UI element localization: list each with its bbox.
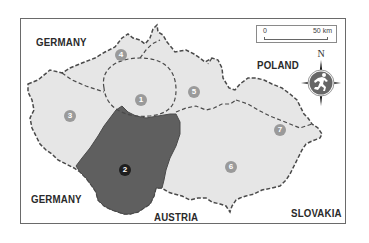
scale-end-label: 50 km <box>313 27 332 34</box>
region-5-badge[interactable]: 5 <box>188 86 200 98</box>
compass-rose: N <box>301 48 341 106</box>
label-austria: AUSTRIA <box>154 211 198 223</box>
north-label: N <box>301 48 341 59</box>
label-germany-south: GERMANY <box>31 193 82 205</box>
scale-bar: 0 50 km <box>256 25 337 43</box>
region-6-badge[interactable]: 6 <box>225 161 237 173</box>
label-germany-north: GERMANY <box>36 36 87 48</box>
region-3-badge[interactable]: 3 <box>64 110 76 122</box>
scale-line <box>264 37 328 40</box>
label-poland: POLAND <box>257 59 299 71</box>
label-slovakia: SLOVAKIA <box>291 207 342 219</box>
runner-compass-icon <box>301 60 341 106</box>
region-7-badge[interactable]: 7 <box>274 124 286 136</box>
region-4-badge[interactable]: 4 <box>115 49 127 61</box>
region-1-badge[interactable]: 1 <box>135 94 147 106</box>
region-2-badge[interactable]: 2 <box>119 164 131 176</box>
scale-start-label: 0 <box>263 27 267 34</box>
